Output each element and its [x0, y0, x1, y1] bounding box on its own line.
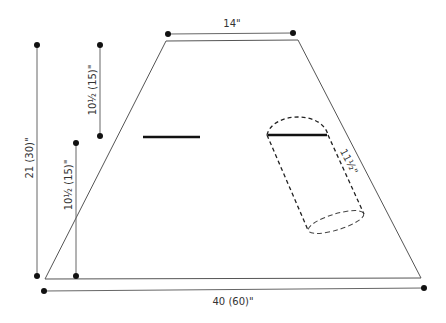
dot-marker	[97, 133, 103, 139]
lower-segment-dimension: 10½ (15)"	[63, 140, 79, 279]
dot-marker	[34, 273, 40, 279]
upper-segment-dimension: 10½ (15)"	[87, 42, 103, 139]
sleeve-length-label: 11½"	[338, 147, 360, 176]
bottom-width-label: 40 (60)"	[212, 296, 253, 307]
dot-marker	[421, 285, 427, 291]
dot-marker	[34, 42, 40, 48]
trapezoid-outline	[45, 40, 421, 279]
bottom-width-dimension: 40 (60)"	[41, 285, 427, 307]
dot-marker	[97, 42, 103, 48]
dot-marker	[41, 288, 47, 294]
total-height-label: 21 (30)"	[24, 137, 35, 178]
dot-marker	[165, 31, 171, 37]
total-height-dimension: 21 (30)"	[24, 42, 40, 279]
upper-segment-label: 10½ (15)"	[87, 65, 98, 116]
dot-marker	[73, 140, 79, 146]
top-width-dimension: 14"	[165, 18, 296, 37]
dot-marker	[73, 273, 79, 279]
lower-segment-label: 10½ (15)"	[63, 160, 74, 211]
top-width-label: 14"	[223, 18, 240, 29]
diagram-canvas: 14" 21 (30)" 10½ (15)" 10½ (15)" 40 (60)…	[0, 0, 446, 323]
dot-marker	[290, 30, 296, 36]
